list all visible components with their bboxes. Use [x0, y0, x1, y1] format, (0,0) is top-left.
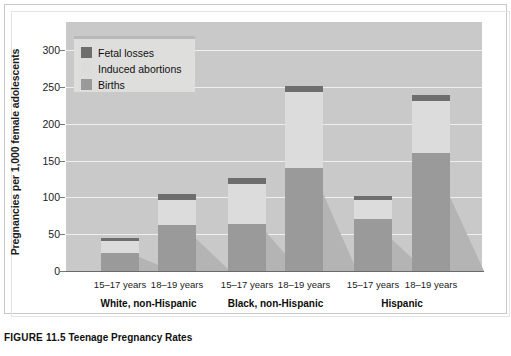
bar-segment-births [158, 225, 196, 271]
legend-item-fetal[interactable]: Fetal losses [81, 45, 195, 60]
x-axis-line [64, 271, 484, 272]
bar-segment-induced-abortions [158, 200, 196, 225]
y-axis-title: Pregnancies per 1,000 female adolescents [6, 36, 24, 268]
bar-segment-fetal-losses [412, 95, 450, 101]
bar-segment-fetal-losses [158, 194, 196, 200]
y-tick-mark-100 [60, 197, 65, 198]
x-group-label: Black, non-Hispanic [228, 298, 324, 309]
y-axis-title-text: Pregnancies per 1,000 female adolescents [9, 49, 21, 256]
y-tick-label-200: 200 [26, 118, 60, 130]
legend-item-abortions[interactable]: Induced abortions [81, 61, 195, 76]
y-tick-label-50: 50 [26, 228, 60, 240]
x-age-label: 15–17 years [221, 279, 273, 290]
y-tick-label-0: 0 [26, 265, 60, 277]
figure-caption: FIGURE 11.5 Teenage Pregnancy Rates [4, 332, 404, 348]
bar-black-non-hispanic-18-19-[interactable] [285, 86, 323, 271]
bar-segment-induced-abortions [412, 101, 450, 153]
bar-shadow [196, 239, 230, 271]
y-tick-mark-150 [60, 161, 65, 162]
x-age-label: 18–19 years [151, 279, 203, 290]
bar-shadow [323, 193, 357, 271]
bar-segment-births [101, 253, 139, 271]
y-tick-mark-300 [60, 50, 65, 51]
bar-segment-induced-abortions [228, 184, 266, 224]
bar-segment-fetal-losses [285, 86, 323, 92]
legend-swatch-fetal [81, 47, 92, 58]
y-tick-label-100: 100 [26, 191, 60, 203]
bar-segment-fetal-losses [228, 178, 266, 184]
bar-segment-induced-abortions [101, 241, 139, 254]
y-tick-label-300: 300 [26, 44, 60, 56]
bar-segment-births [285, 168, 323, 271]
bar-segment-fetal-losses [101, 238, 139, 241]
legend-item-births[interactable]: Births [81, 77, 195, 92]
bar-white-non-hispanic-18-19-[interactable] [158, 194, 196, 271]
chart-legend: Fetal lossesInduced abortionsBirths [74, 36, 195, 92]
bar-black-non-hispanic-15-17-[interactable] [228, 178, 266, 271]
legend-swatch-births [81, 79, 92, 90]
x-group-label: White, non-Hispanic [100, 298, 196, 309]
legend-swatch-abortions [81, 63, 92, 74]
legend-label-fetal: Fetal losses [98, 47, 154, 59]
x-age-label: 18–19 years [405, 279, 457, 290]
bar-segment-induced-abortions [354, 200, 392, 218]
caption-divider [4, 322, 507, 323]
bar-segment-induced-abortions [285, 92, 323, 168]
y-tick-mark-0 [60, 271, 65, 272]
y-tick-mark-250 [60, 87, 65, 88]
x-age-label: 18–19 years [278, 279, 330, 290]
y-tick-label-250: 250 [26, 81, 60, 93]
bar-hispanic-15-17-[interactable] [354, 196, 392, 271]
figure-title: Teenage Pregnancy Rates [68, 332, 192, 343]
x-group-label: Hispanic [381, 298, 423, 309]
y-axis-tick-labels: 050100150200250300 [24, 0, 60, 300]
y-tick-mark-50 [60, 234, 65, 235]
y-tick-mark-200 [60, 124, 65, 125]
figure-number: FIGURE 11.5 [4, 332, 66, 343]
legend-label-births: Births [98, 79, 125, 91]
legend-label-abortions: Induced abortions [98, 63, 181, 75]
y-tick-label-150: 150 [26, 155, 60, 167]
x-age-label: 15–17 years [347, 279, 399, 290]
bar-segment-births [228, 224, 266, 271]
bar-segment-fetal-losses [354, 196, 392, 200]
bar-hispanic-18-19-[interactable] [412, 95, 450, 271]
bar-white-non-hispanic-15-17-[interactable] [101, 238, 139, 271]
bar-segment-births [354, 219, 392, 271]
bar-segment-births [412, 153, 450, 271]
x-age-label: 15–17 years [94, 279, 146, 290]
